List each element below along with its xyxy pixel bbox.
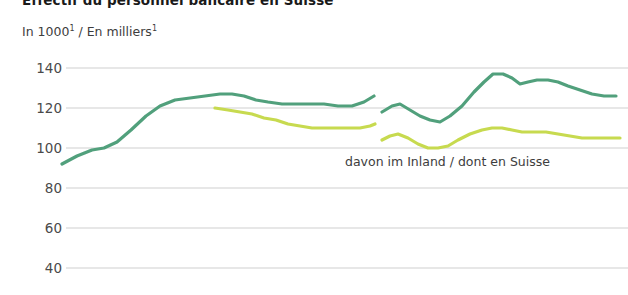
series-annotation-inland: davon im Inland / dont en Suisse xyxy=(345,154,550,169)
series-0-segment-1 xyxy=(382,74,616,122)
chart-svg xyxy=(0,0,628,295)
chart-container: Effectif du personnel bancaire en Suisse… xyxy=(0,0,628,295)
series-1-segment-0 xyxy=(215,108,375,128)
series-1-segment-1 xyxy=(382,128,620,148)
series-lines xyxy=(62,74,620,164)
plot-area xyxy=(0,0,628,295)
